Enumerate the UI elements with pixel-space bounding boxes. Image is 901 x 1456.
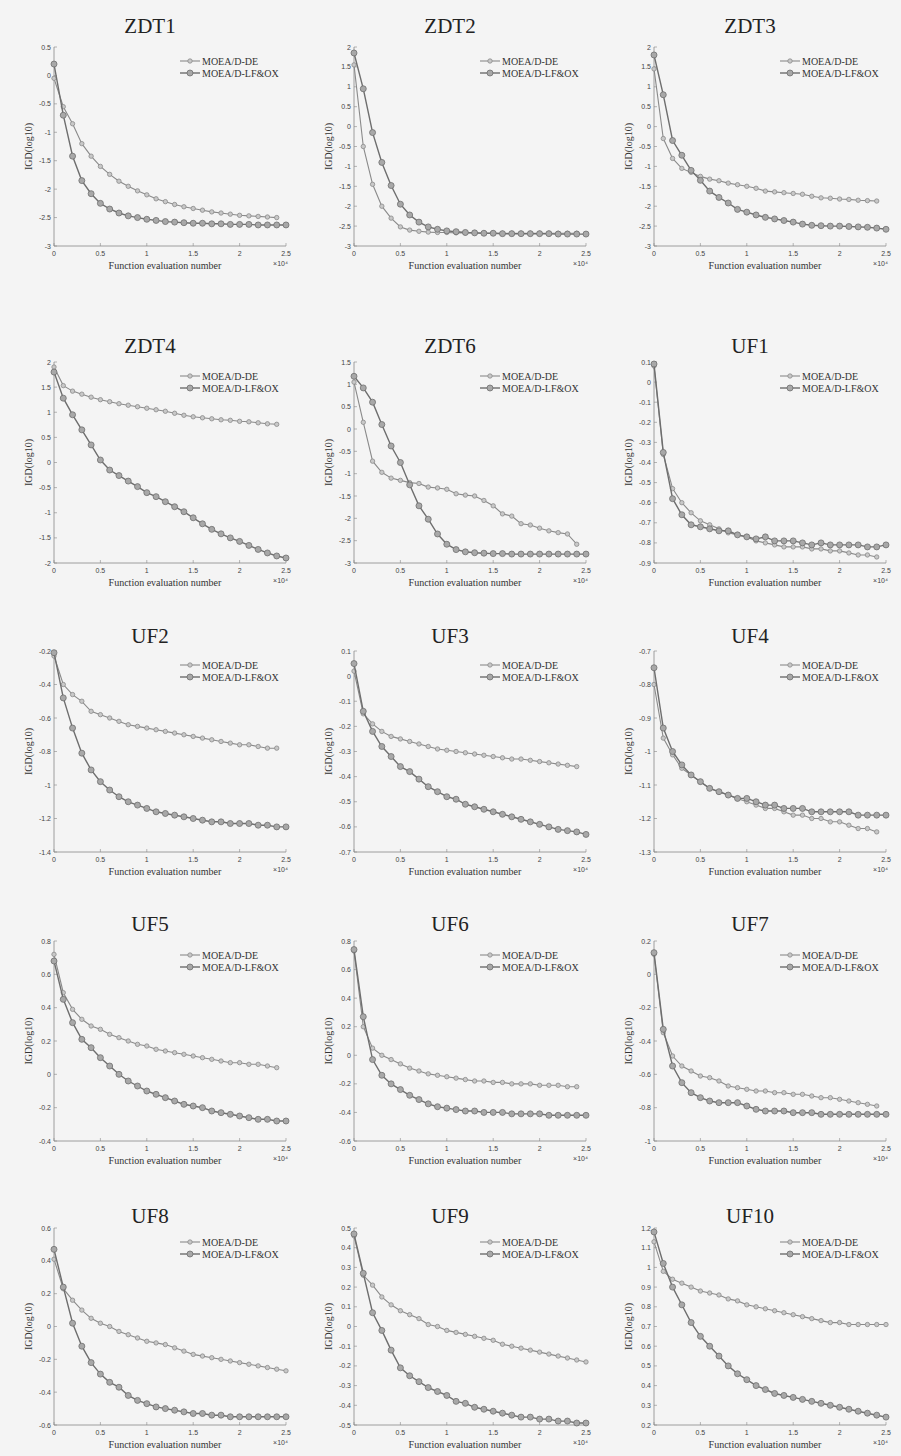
svg-text:-1: -1	[345, 163, 351, 170]
series-moead-de	[652, 67, 879, 204]
svg-text:-0.6: -0.6	[639, 499, 651, 506]
svg-text:-0.9: -0.9	[639, 560, 651, 567]
svg-text:-0.4: -0.4	[339, 1402, 351, 1409]
svg-text:-2.5: -2.5	[39, 214, 51, 221]
svg-text:Function evaluation number: Function evaluation number	[709, 1155, 822, 1166]
svg-text:-0.4: -0.4	[639, 1038, 651, 1045]
svg-text:0: 0	[347, 123, 351, 130]
legend: MOEA/D-DEMOEA/D-LF&OX	[480, 950, 579, 973]
svg-text:0: 0	[47, 459, 51, 466]
svg-text:MOEA/D-LF&OX: MOEA/D-LF&OX	[502, 1249, 579, 1260]
svg-text:1.5: 1.5	[188, 250, 198, 257]
svg-text:-1: -1	[645, 1138, 651, 1145]
series-moead-lfox	[351, 661, 589, 838]
legend: MOEA/D-DEMOEA/D-LF&OX	[780, 950, 879, 973]
svg-text:-0.5: -0.5	[639, 143, 651, 150]
svg-text:MOEA/D-LF&OX: MOEA/D-LF&OX	[802, 68, 879, 79]
svg-text:1.5: 1.5	[788, 250, 798, 257]
series-moead-lfox	[51, 958, 289, 1124]
svg-text:-0.5: -0.5	[639, 479, 651, 486]
svg-text:1: 1	[145, 250, 149, 257]
svg-text:-2: -2	[45, 186, 51, 193]
svg-text:MOEA/D-LF&OX: MOEA/D-LF&OX	[202, 68, 279, 79]
svg-text:Function evaluation number: Function evaluation number	[409, 1439, 522, 1450]
svg-text:-0.2: -0.2	[39, 1356, 51, 1363]
svg-text:0.8: 0.8	[641, 1303, 651, 1310]
svg-text:×10⁴: ×10⁴	[873, 577, 888, 584]
svg-text:-0.5: -0.5	[39, 100, 51, 107]
svg-text:Function evaluation number: Function evaluation number	[709, 577, 822, 588]
svg-text:MOEA/D-DE: MOEA/D-DE	[802, 56, 858, 67]
svg-text:0.5: 0.5	[41, 434, 51, 441]
svg-text:1: 1	[347, 381, 351, 388]
svg-text:IGD(log10): IGD(log10)	[323, 728, 335, 775]
svg-text:2.5: 2.5	[581, 1145, 591, 1152]
chart-panel-zdt1: ZDT10.50-0.5-1-1.5-2-2.5-300.511.522.5×1…	[0, 14, 300, 304]
svg-text:1.5: 1.5	[788, 856, 798, 863]
svg-text:1: 1	[445, 1429, 449, 1436]
svg-text:-0.4: -0.4	[39, 1138, 51, 1145]
svg-text:-0.4: -0.4	[639, 459, 651, 466]
line-chart: 21.510.50-0.5-1-1.5-2-2.5-300.511.522.5×…	[600, 14, 900, 304]
svg-text:2.5: 2.5	[881, 1429, 891, 1436]
chart-panel-zdt4: ZDT421.510.50-0.5-1-1.5-200.511.522.5×10…	[0, 334, 300, 624]
svg-text:MOEA/D-DE: MOEA/D-DE	[202, 660, 258, 671]
svg-text:×10⁴: ×10⁴	[573, 866, 588, 873]
svg-text:×10⁴: ×10⁴	[573, 577, 588, 584]
legend: MOEA/D-DEMOEA/D-LF&OX	[180, 950, 279, 973]
legend: MOEA/D-DEMOEA/D-LF&OX	[780, 1237, 879, 1260]
svg-text:1: 1	[445, 567, 449, 574]
line-chart: 0.10-0.1-0.2-0.3-0.4-0.5-0.6-0.700.511.5…	[300, 624, 600, 914]
svg-text:0: 0	[347, 426, 351, 433]
svg-text:MOEA/D-LF&OX: MOEA/D-LF&OX	[202, 672, 279, 683]
svg-text:-1.2: -1.2	[639, 815, 651, 822]
svg-text:2.5: 2.5	[281, 1429, 291, 1436]
svg-text:0.2: 0.2	[41, 1038, 51, 1045]
svg-text:Function evaluation number: Function evaluation number	[709, 1439, 822, 1450]
svg-text:0: 0	[352, 1145, 356, 1152]
series-moead-de	[652, 952, 879, 1108]
svg-text:×10⁴: ×10⁴	[873, 1439, 888, 1446]
svg-text:1: 1	[647, 83, 651, 90]
svg-text:MOEA/D-LF&OX: MOEA/D-LF&OX	[502, 68, 579, 79]
svg-text:-0.9: -0.9	[639, 715, 651, 722]
svg-text:0.5: 0.5	[96, 250, 106, 257]
legend: MOEA/D-DEMOEA/D-LF&OX	[180, 371, 279, 394]
svg-text:1: 1	[445, 250, 449, 257]
svg-text:-0.8: -0.8	[639, 681, 651, 688]
svg-text:MOEA/D-LF&OX: MOEA/D-LF&OX	[802, 1249, 879, 1260]
svg-text:2: 2	[238, 1429, 242, 1436]
svg-text:-0.3: -0.3	[639, 439, 651, 446]
svg-text:-0.8: -0.8	[639, 1104, 651, 1111]
chart-panel-uf5: UF50.80.60.40.20-0.2-0.400.511.522.5×10⁴…	[0, 912, 300, 1202]
svg-text:0.5: 0.5	[696, 1429, 706, 1436]
series-moead-lfox	[651, 665, 889, 818]
svg-text:-1.4: -1.4	[39, 849, 51, 856]
svg-text:Function evaluation number: Function evaluation number	[109, 1155, 222, 1166]
svg-text:MOEA/D-DE: MOEA/D-DE	[502, 371, 558, 382]
legend: MOEA/D-DEMOEA/D-LF&OX	[480, 371, 579, 394]
svg-text:1: 1	[745, 1145, 749, 1152]
svg-text:-2.5: -2.5	[339, 223, 351, 230]
svg-text:IGD(log10): IGD(log10)	[623, 439, 635, 486]
svg-text:IGD(log10): IGD(log10)	[23, 1017, 35, 1064]
svg-text:×10⁴: ×10⁴	[873, 260, 888, 267]
svg-text:2: 2	[538, 856, 542, 863]
svg-text:MOEA/D-LF&OX: MOEA/D-LF&OX	[502, 672, 579, 683]
svg-text:-0.7: -0.7	[639, 648, 651, 655]
chart-panel-zdt2: ZDT221.510.50-0.5-1-1.5-2-2.5-300.511.52…	[300, 14, 600, 304]
svg-text:0: 0	[652, 1429, 656, 1436]
svg-text:0.2: 0.2	[641, 1422, 651, 1429]
legend: MOEA/D-DEMOEA/D-LF&OX	[180, 56, 279, 79]
svg-text:-2: -2	[345, 515, 351, 522]
line-chart: 21.510.50-0.5-1-1.5-2-2.5-300.511.522.5×…	[300, 14, 600, 304]
chart-panel-uf4: UF4-0.7-0.8-0.9-1-1.1-1.2-1.300.511.522.…	[600, 624, 900, 914]
svg-text:0: 0	[352, 567, 356, 574]
svg-text:MOEA/D-LF&OX: MOEA/D-LF&OX	[802, 672, 879, 683]
chart-panel-uf8: UF80.60.40.20-0.2-0.4-0.600.511.522.5×10…	[0, 1204, 300, 1456]
svg-text:MOEA/D-DE: MOEA/D-DE	[502, 950, 558, 961]
svg-text:0.5: 0.5	[96, 1429, 106, 1436]
svg-text:-0.5: -0.5	[339, 448, 351, 455]
svg-text:×10⁴: ×10⁴	[273, 866, 288, 873]
svg-text:IGD(log10): IGD(log10)	[23, 123, 35, 170]
